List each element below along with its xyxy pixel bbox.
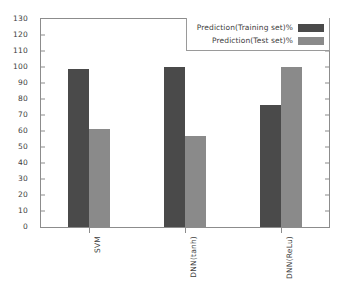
y-axis-tick-label: 80 — [18, 95, 28, 103]
bar — [68, 69, 89, 227]
y-axis-tick-label: 90 — [18, 79, 28, 87]
legend-item-label: Prediction(Test set)% — [212, 36, 293, 45]
y-axis-tick-label: 50 — [18, 143, 28, 151]
y-axis-tick-label: 10 — [18, 207, 28, 215]
x-axis-tick-label: DNN(ReLu) — [285, 236, 294, 279]
legend-color-swatch — [298, 37, 324, 45]
y-axis-tick-label: 20 — [18, 191, 28, 199]
x-axis-tick-label: DNN(tanh) — [189, 236, 198, 278]
chart-legend: Prediction(Training set)%Prediction(Test… — [186, 18, 330, 51]
y-axis: 0102030405060708090100110120130 — [0, 12, 40, 234]
y-axis-tick-label: 60 — [18, 127, 28, 135]
y-axis-tick-label: 70 — [18, 111, 28, 119]
y-axis-tick-label: 40 — [18, 159, 28, 167]
y-axis-tick-label: 130 — [13, 15, 28, 23]
bar — [164, 67, 185, 227]
x-axis-tick-mark — [185, 228, 186, 233]
legend-item: Prediction(Training set)% — [191, 22, 324, 33]
bar — [89, 129, 110, 227]
bar — [185, 136, 206, 227]
bar — [260, 105, 281, 227]
y-axis-tick-label: 120 — [13, 31, 28, 39]
x-axis-tick-mark — [89, 228, 90, 233]
y-axis-tick-label: 100 — [13, 63, 28, 71]
legend-item-label: Prediction(Training set)% — [197, 23, 293, 32]
legend-item: Prediction(Test set)% — [191, 35, 324, 46]
bar-chart-figure: 0102030405060708090100110120130 SVMDNN(t… — [0, 0, 346, 293]
y-axis-tick-label: 30 — [18, 175, 28, 183]
bar — [281, 67, 302, 227]
legend-color-swatch — [298, 24, 324, 32]
y-axis-tick-label: 0 — [23, 223, 28, 231]
y-axis-tick-label: 110 — [13, 47, 28, 55]
x-axis-tick-label: SVM — [93, 236, 102, 253]
x-axis-tick-mark — [281, 228, 282, 233]
